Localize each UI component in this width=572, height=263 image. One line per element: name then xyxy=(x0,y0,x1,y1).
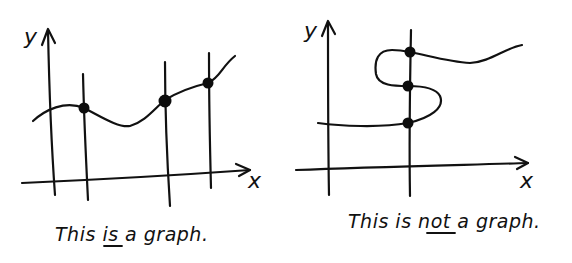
left-x-axis-label: x xyxy=(247,168,262,193)
vertical-line-test-diagram: y x This is a graph. y x xyxy=(0,0,572,263)
right-relation-curve xyxy=(318,45,522,126)
left-intersection-dot-1 xyxy=(79,103,90,114)
left-caption-part-1: This xyxy=(55,223,102,245)
left-vertical-line-3 xyxy=(209,53,211,188)
right-intersection-dot-1 xyxy=(405,47,416,58)
diagram-svg: y x This is a graph. y x xyxy=(0,0,572,263)
left-caption-emphasis: is xyxy=(102,223,118,245)
right-caption-part-1: This is xyxy=(348,210,418,232)
left-x-axis xyxy=(22,170,250,183)
left-intersection-dot-3 xyxy=(203,78,214,89)
left-y-axis-label: y xyxy=(23,24,38,49)
left-caption-part-3: a graph. xyxy=(119,223,209,245)
left-y-axis xyxy=(48,30,55,195)
right-x-axis-label: x xyxy=(519,168,534,193)
right-caption: This is not a graph. xyxy=(348,210,541,232)
right-y-axis-label: y xyxy=(303,18,318,43)
left-intersection-dot-2 xyxy=(159,95,172,108)
right-panel: y x This is not a graph. xyxy=(296,18,541,233)
left-panel: y x This is a graph. xyxy=(22,24,262,246)
right-intersection-dot-3 xyxy=(403,118,414,129)
left-function-curve xyxy=(33,56,235,126)
right-caption-emphasis: not xyxy=(418,210,452,232)
right-intersection-dot-2 xyxy=(403,81,414,92)
right-caption-part-3: a graph. xyxy=(451,210,541,232)
right-x-axis xyxy=(296,163,528,170)
left-caption: This is a graph. xyxy=(55,223,208,245)
left-vertical-line-2 xyxy=(165,62,170,206)
